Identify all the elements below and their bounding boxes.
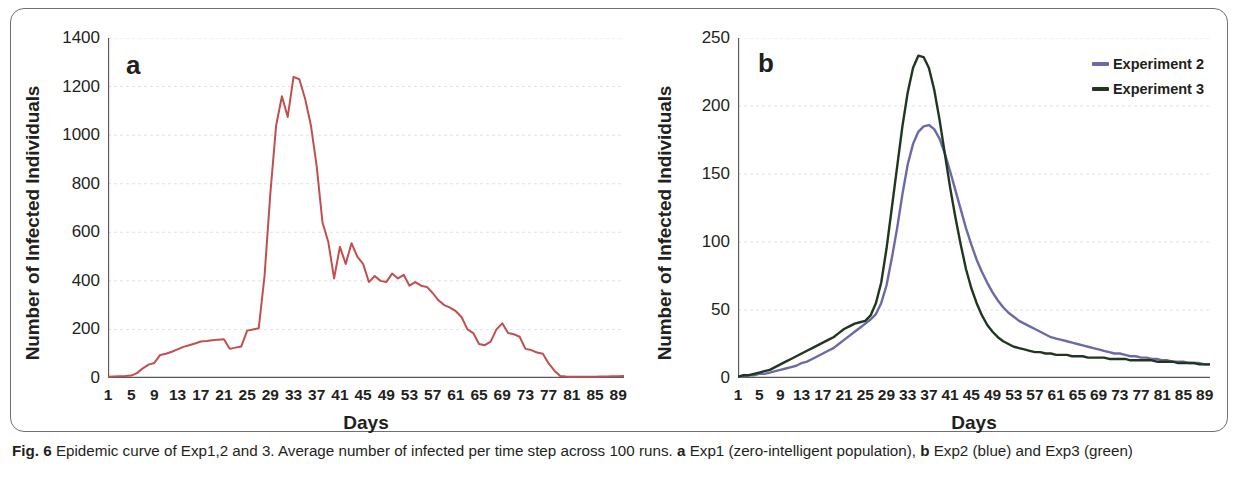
- chart-panel-a: Number of Infected Individuals a 0200400…: [0, 0, 640, 432]
- x-tick-label: 89: [1196, 386, 1213, 404]
- line-chart-a: [108, 38, 624, 378]
- x-tick-label: 53: [401, 386, 418, 404]
- caption-figure-label: Fig. 6: [12, 442, 52, 459]
- x-tick-label: 17: [192, 386, 209, 404]
- x-tick-label: 21: [835, 386, 852, 404]
- x-tick-label: 69: [494, 386, 511, 404]
- x-tick-label: 49: [378, 386, 395, 404]
- x-tick-label: 1: [734, 386, 743, 404]
- y-tick-label: 250: [702, 28, 730, 48]
- x-tick-label: 25: [857, 386, 874, 404]
- y-tick-label: 50: [711, 300, 730, 320]
- x-tick-label: 89: [610, 386, 627, 404]
- x-tick-label: 37: [920, 386, 937, 404]
- x-tick-label: 65: [1069, 386, 1086, 404]
- x-tick-label: 65: [470, 386, 487, 404]
- legend-label: Experiment 3: [1113, 81, 1204, 97]
- plot-area-a: a 0200400600800100012001400 Days 1591317…: [108, 38, 624, 378]
- x-tick-label: 81: [1154, 386, 1171, 404]
- chart-panel-b: Number of Infected Individuals b Experim…: [638, 0, 1235, 432]
- legend-label: Experiment 2: [1113, 56, 1204, 72]
- x-tick-label: 9: [776, 386, 785, 404]
- x-tick-label: 13: [793, 386, 810, 404]
- x-tick-label: 73: [517, 386, 534, 404]
- x-tick-label: 85: [1175, 386, 1192, 404]
- x-tick-label: 37: [308, 386, 325, 404]
- y-tick-label: 200: [702, 96, 730, 116]
- x-tick-label: 57: [424, 386, 441, 404]
- x-axis-title-b: Days: [738, 412, 1210, 434]
- x-tick-label: 57: [1026, 386, 1043, 404]
- y-tick-label: 1000: [62, 125, 100, 145]
- data-series-line: [738, 125, 1210, 377]
- legend-item: Experiment 3: [1092, 81, 1204, 97]
- legend-swatch-icon: [1092, 62, 1109, 66]
- x-axis-title-a: Days: [108, 412, 624, 434]
- y-tick-label: 150: [702, 164, 730, 184]
- caption-text-a: Exp1 (zero-intelligent population),: [690, 442, 916, 459]
- data-series-line: [108, 77, 624, 377]
- y-tick-labels-b: 050100150200250: [682, 38, 730, 378]
- panel-letter-a: a: [126, 50, 140, 81]
- y-tick-label: 600: [72, 222, 100, 242]
- plot-area-b: b Experiment 2Experiment 3 0501001502002…: [738, 38, 1210, 378]
- x-tick-label: 45: [963, 386, 980, 404]
- x-tick-label: 33: [899, 386, 916, 404]
- y-tick-label: 400: [72, 271, 100, 291]
- x-tick-label: 45: [354, 386, 371, 404]
- chart-legend-b: Experiment 2Experiment 3: [1092, 56, 1204, 97]
- legend-item: Experiment 2: [1092, 56, 1204, 72]
- y-tick-label: 200: [72, 319, 100, 339]
- x-tick-label: 5: [127, 386, 136, 404]
- x-tick-label: 5: [755, 386, 764, 404]
- x-tick-label: 73: [1111, 386, 1128, 404]
- y-tick-label: 0: [721, 368, 730, 388]
- y-tick-label: 1400: [62, 28, 100, 48]
- y-axis-title-b: Number of Infected Individuals: [650, 28, 680, 418]
- x-tick-label: 61: [1048, 386, 1065, 404]
- x-tick-label: 53: [1005, 386, 1022, 404]
- x-tick-label: 25: [239, 386, 256, 404]
- x-tick-label: 33: [285, 386, 302, 404]
- x-tick-label: 85: [586, 386, 603, 404]
- x-tick-label: 17: [814, 386, 831, 404]
- x-tick-label: 29: [878, 386, 895, 404]
- figure-6: Number of Infected Individuals a 0200400…: [0, 0, 1235, 504]
- x-tick-label: 9: [150, 386, 159, 404]
- plot-canvas-a: [108, 38, 624, 378]
- x-tick-label: 41: [942, 386, 959, 404]
- legend-swatch-icon: [1092, 87, 1109, 91]
- figure-caption: Fig. 6 Epidemic curve of Exp1,2 and 3. A…: [12, 440, 1224, 462]
- x-tick-label: 81: [563, 386, 580, 404]
- y-tick-labels-a: 0200400600800100012001400: [42, 38, 100, 378]
- x-tick-label: 69: [1090, 386, 1107, 404]
- caption-marker-a: a: [677, 442, 685, 459]
- y-tick-label: 100: [702, 232, 730, 252]
- x-tick-label: 41: [331, 386, 348, 404]
- y-tick-label: 800: [72, 174, 100, 194]
- x-tick-label: 49: [984, 386, 1001, 404]
- caption-marker-b: b: [920, 442, 929, 459]
- data-series-line: [738, 56, 1210, 377]
- x-tick-label: 21: [215, 386, 232, 404]
- x-tick-label: 13: [169, 386, 186, 404]
- y-tick-label: 0: [91, 368, 100, 388]
- caption-text-b: Exp2 (blue) and Exp3 (green): [934, 442, 1133, 459]
- x-tick-label: 1: [104, 386, 113, 404]
- caption-main-text: Epidemic curve of Exp1,2 and 3. Average …: [56, 442, 673, 459]
- y-tick-label: 1200: [62, 77, 100, 97]
- x-tick-label: 61: [447, 386, 464, 404]
- x-tick-label: 77: [1132, 386, 1149, 404]
- x-tick-label: 29: [262, 386, 279, 404]
- panel-letter-b: b: [758, 48, 774, 79]
- x-tick-label: 77: [540, 386, 557, 404]
